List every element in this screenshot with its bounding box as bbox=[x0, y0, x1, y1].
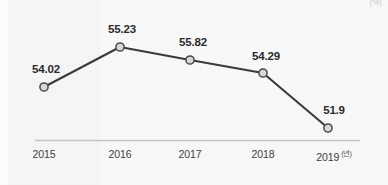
data-point-marker[interactable] bbox=[116, 43, 124, 51]
data-point-marker[interactable] bbox=[40, 83, 48, 91]
x-axis-label-2015: 2015 bbox=[33, 148, 56, 160]
x-axis-label-2018: 2018 bbox=[252, 148, 275, 160]
x-axis-label-2018-text: 2018 bbox=[252, 148, 275, 160]
x-axis-label-2016-text: 2016 bbox=[109, 148, 132, 160]
x-axis-unit-note: (년) bbox=[341, 150, 352, 157]
line-chart-figure: (%) 54.02 55.23 55.82 54.29 51.9 2015 20… bbox=[0, 0, 388, 185]
x-axis-label-2015-text: 2015 bbox=[33, 148, 56, 160]
data-point-marker[interactable] bbox=[259, 69, 267, 77]
x-axis-label-2017: 2017 bbox=[179, 148, 202, 160]
data-label-2019: 51.9 bbox=[323, 104, 345, 116]
x-axis-label-2019: 2019(년) bbox=[316, 148, 352, 163]
data-label-2018: 54.29 bbox=[252, 50, 280, 62]
data-point-marker[interactable] bbox=[324, 124, 332, 132]
x-axis-label-2016: 2016 bbox=[109, 148, 132, 160]
data-label-2017: 55.82 bbox=[179, 36, 207, 48]
x-axis-label-2019-text: 2019 bbox=[316, 151, 339, 163]
data-point-marker[interactable] bbox=[186, 56, 194, 64]
x-axis-label-2017-text: 2017 bbox=[179, 148, 202, 160]
data-label-2015: 54.02 bbox=[32, 63, 60, 75]
data-label-2016: 55.23 bbox=[108, 23, 136, 35]
